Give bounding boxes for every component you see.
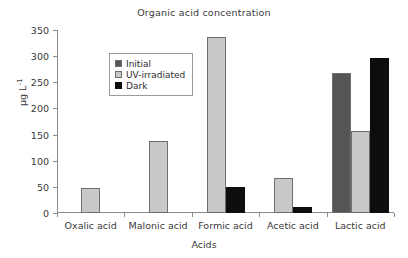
x-axis-tick [327,213,328,217]
legend-item: Initial [115,58,185,69]
bar [81,188,100,213]
legend-item: UV-irradiated [115,69,185,80]
bar [370,58,389,213]
y-axis-tick [53,82,57,83]
x-axis-label: Acids [0,239,408,250]
y-axis-tick [53,135,57,136]
y-axis-tick-label: 100 [9,155,49,166]
y-axis-tick-label: 150 [9,129,49,140]
legend-label: Dark [126,81,147,91]
bar [351,131,370,213]
x-axis-category-label: Lactic acid [335,220,386,231]
legend: InitialUV-irradiatedDark [109,53,193,96]
y-axis-tick [53,30,57,31]
y-axis-line [57,30,58,213]
bar [293,207,312,213]
x-axis-category-label: Acetic acid [267,220,319,231]
x-axis-category-label: Oxalic acid [65,220,117,231]
y-axis-tick-label: 200 [9,103,49,114]
legend-swatch-dark [115,82,122,89]
y-axis-tick [53,161,57,162]
y-axis-tick-label: 350 [9,25,49,36]
y-axis-tick-label: 300 [9,51,49,62]
x-axis-category-label: Formic acid [198,220,253,231]
x-axis-tick [57,213,58,217]
legend-item: Dark [115,80,185,91]
x-axis-category-label: Malonic acid [129,220,188,231]
plot-area: 050100150200250300350 Oxalic acidMalonic… [57,30,394,213]
x-axis-tick [124,213,125,217]
legend-swatch-initial [115,60,122,67]
y-axis-tick-label: 250 [9,77,49,88]
bar [274,178,293,213]
y-axis-tick-label: 50 [9,181,49,192]
bar [332,73,351,213]
y-axis-tick [53,56,57,57]
bar [149,141,168,213]
y-axis-tick [53,187,57,188]
chart-figure: Organic acid concentration µg L-1 050100… [0,0,408,258]
chart-title: Organic acid concentration [0,7,408,18]
legend-label: Initial [126,59,151,69]
legend-label: UV-irradiated [126,70,185,80]
legend-swatch-uv-irradiated [115,71,122,78]
y-axis-tick-label: 0 [9,208,49,219]
bar [207,37,226,213]
x-axis-tick [259,213,260,217]
y-axis-tick [53,108,57,109]
bar [226,187,245,213]
x-axis-tick [192,213,193,217]
x-axis-tick [394,213,395,217]
